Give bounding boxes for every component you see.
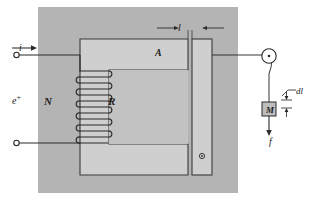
label-emf-superscript: + — [16, 93, 21, 102]
label-emf-e: e+ — [12, 94, 21, 106]
figure-canvas: N R A i e+ l dl M f — [0, 0, 316, 205]
terminal-bottom-icon[interactable] — [14, 140, 19, 145]
string-over-pulley — [269, 57, 272, 102]
dl-leader-line — [282, 90, 296, 96]
terminal-top-icon[interactable] — [14, 52, 19, 57]
dl-arrow-up-lower-icon — [285, 108, 289, 112]
label-force-f: f — [269, 137, 272, 147]
label-area-A: A — [155, 48, 162, 58]
label-current-i: i — [19, 43, 22, 53]
pulley-axle-dot — [268, 55, 271, 58]
arrow-right-icon — [31, 45, 37, 50]
dl-arrow-down-upper-icon — [285, 96, 289, 100]
label-gap-length-l: l — [178, 23, 181, 33]
pivot-dot-center — [201, 155, 203, 157]
label-turns-N: N — [44, 96, 52, 107]
label-displacement-dl: dl — [296, 87, 303, 96]
label-reluctance-R: R — [108, 96, 115, 107]
label-mass-M: M — [266, 106, 274, 115]
core-window — [109, 70, 188, 144]
